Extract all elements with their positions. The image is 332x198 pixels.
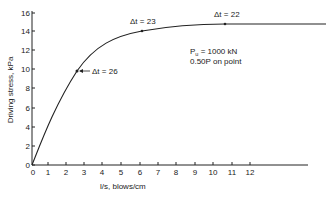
x-tick-label: 6 <box>138 168 143 177</box>
y-axis-title: Driving stress, kPa <box>6 56 15 123</box>
data-point-dt22 <box>224 23 227 26</box>
data-point-dt26 <box>76 70 79 73</box>
driving-stress-chart: 0 2 4 6 8 10 12 14 16 Driving stress, kP… <box>0 0 332 198</box>
x-tick-label: 0 <box>31 168 36 177</box>
arrow-icon <box>79 69 83 73</box>
annotation-dt26: Δt = 26 <box>79 67 118 76</box>
x-tick-label: 4 <box>100 168 105 177</box>
x-axis-title: l/s, blows/cm <box>100 182 146 191</box>
x-axis: 0 1 2 3 4 5 6 7 8 9 10 11 12 l/s, blows/… <box>31 162 308 191</box>
y-tick-label: 6 <box>26 104 31 113</box>
svg-text:Pu = 1000 kN: Pu = 1000 kN <box>190 47 238 57</box>
y-tick-label: 8 <box>26 84 31 93</box>
x-tick-label: 12 <box>246 168 255 177</box>
x-tick-label: 3 <box>82 168 87 177</box>
x-tick-label: 1 <box>46 168 51 177</box>
x-tick-label: 5 <box>119 168 124 177</box>
y-axis: 0 2 4 6 8 10 12 14 16 Driving stress, kP… <box>6 9 35 170</box>
x-tick-label: 8 <box>174 168 179 177</box>
x-tick-label: 11 <box>228 168 237 177</box>
y-tick-label: 16 <box>21 9 30 18</box>
x-tick-label: 7 <box>156 168 161 177</box>
chart-note: Pu = 1000 kN 0.50P on point <box>190 47 242 66</box>
annotation-dt22: Δt = 22 <box>214 10 240 19</box>
x-tick-label: 9 <box>193 168 198 177</box>
note-point: 0.50P on point <box>190 57 242 66</box>
y-tick-label: 2 <box>26 142 31 151</box>
data-point-dt23 <box>141 30 144 33</box>
note-pu-rest: = 1000 kN <box>198 47 237 56</box>
annotation-dt23: Δt = 23 <box>130 17 156 26</box>
x-tick-label: 10 <box>209 168 218 177</box>
y-tick-label: 10 <box>21 65 30 74</box>
y-tick-label: 12 <box>21 46 30 55</box>
driving-stress-curve <box>32 24 326 165</box>
y-tick-label: 14 <box>21 27 30 36</box>
y-tick-label: 4 <box>26 123 31 132</box>
x-tick-label: 2 <box>64 168 69 177</box>
annotation-label: Δt = 26 <box>92 67 118 76</box>
